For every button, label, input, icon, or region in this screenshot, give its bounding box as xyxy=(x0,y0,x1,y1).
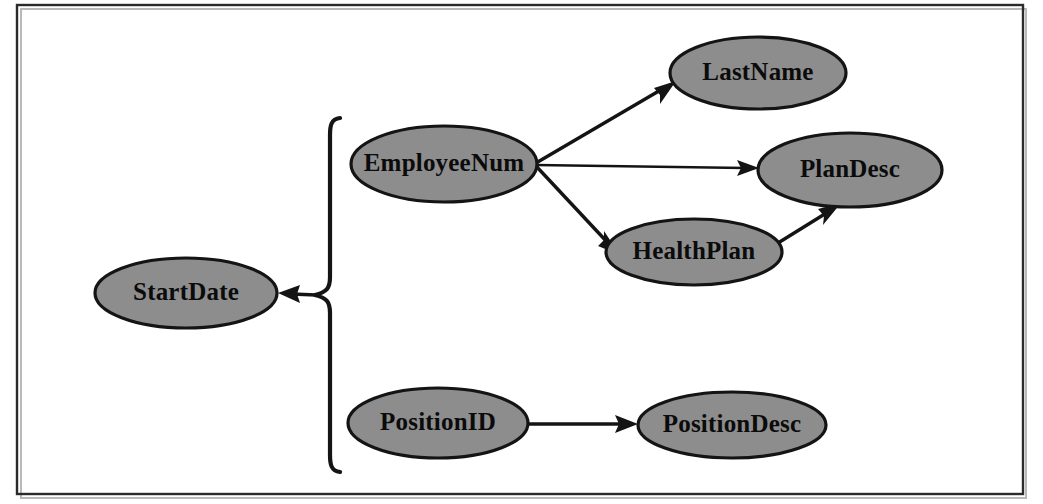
plandesc-label: PlanDesc xyxy=(800,155,900,182)
positiondesc-label: PositionDesc xyxy=(663,410,802,437)
node-plandesc[interactable]: PlanDesc xyxy=(758,133,942,207)
edge-employeenum-to-healthplan xyxy=(536,166,620,255)
employeenum-plandesc-line xyxy=(536,165,745,168)
edge-positionid-to-positiondesc xyxy=(528,415,638,433)
employeenum-healthplan-line xyxy=(536,166,608,243)
node-startdate[interactable]: StartDate xyxy=(95,258,277,328)
startdate-label: StartDate xyxy=(133,278,239,305)
healthplan-plandesc-line xyxy=(778,212,828,243)
positionid-label: PositionID xyxy=(380,408,496,435)
employeenum-label: EmployeeNum xyxy=(364,149,525,176)
node-lastname[interactable]: LastName xyxy=(670,37,846,109)
edge-healthplan-to-plandesc xyxy=(778,203,841,243)
node-positionid[interactable]: PositionID xyxy=(348,388,528,458)
diagram-canvas: StartDate EmployeeNum LastName PlanDesc … xyxy=(0,0,1043,504)
node-employeenum[interactable]: EmployeeNum xyxy=(351,126,537,202)
healthplan-label: HealthPlan xyxy=(633,237,756,264)
node-positiondesc[interactable]: PositionDesc xyxy=(638,392,826,458)
functional-dependency-diagram: StartDate EmployeeNum LastName PlanDesc … xyxy=(0,0,1043,504)
employeenum-lastname-line xyxy=(536,88,664,163)
brace-path xyxy=(315,118,340,472)
edge-employeenum-to-lastname xyxy=(536,81,676,163)
edge-employeenum-to-plandesc xyxy=(536,160,759,176)
lastname-label: LastName xyxy=(702,58,813,85)
grouping-brace xyxy=(278,118,340,472)
brace-to-startdate-arrowhead xyxy=(278,285,300,303)
node-healthplan[interactable]: HealthPlan xyxy=(606,219,782,285)
